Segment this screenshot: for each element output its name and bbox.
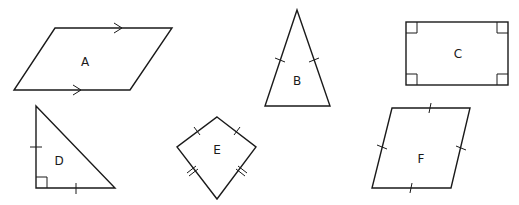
shapes-diagram: A B C D E (0, 0, 519, 205)
kite-outline (177, 117, 256, 199)
shape-b-isosceles-triangle: B (265, 10, 330, 106)
rhombus-outline (372, 108, 470, 188)
right-angle-bottom-right-icon (497, 74, 508, 85)
right-angle-bottom-left-icon (406, 74, 417, 85)
shape-a-parallelogram: A (14, 23, 172, 95)
label-d: D (54, 154, 63, 168)
label-e: E (213, 143, 221, 157)
triangle-outline (36, 106, 115, 188)
shape-f-rhombus: F (372, 103, 470, 193)
label-a: A (81, 55, 90, 69)
right-angle-icon (36, 177, 47, 188)
right-angle-top-right-icon (497, 22, 508, 33)
shape-c-rectangle: C (406, 22, 508, 85)
label-c: C (454, 47, 462, 61)
label-b: B (293, 74, 301, 88)
label-f: F (418, 152, 425, 166)
triangle-outline (265, 10, 330, 106)
shape-e-kite: E (177, 117, 256, 199)
right-angle-top-left-icon (406, 22, 417, 33)
shape-d-right-triangle: D (30, 106, 115, 194)
parallelogram-outline (14, 28, 172, 90)
